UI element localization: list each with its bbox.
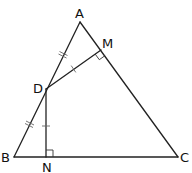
right-angle-mark-n <box>46 150 53 157</box>
vertex-label-m: M <box>102 36 113 51</box>
vertex-label-d: D <box>33 81 43 96</box>
vertex-label-n: N <box>42 160 52 173</box>
triangle-diagram: A M D B N C <box>0 0 192 173</box>
vertex-label-c: C <box>180 150 189 165</box>
vertex-label-a: A <box>75 6 84 21</box>
vertex-label-b: B <box>1 150 10 165</box>
segment-ca <box>80 22 178 157</box>
segment-ab <box>14 22 80 157</box>
